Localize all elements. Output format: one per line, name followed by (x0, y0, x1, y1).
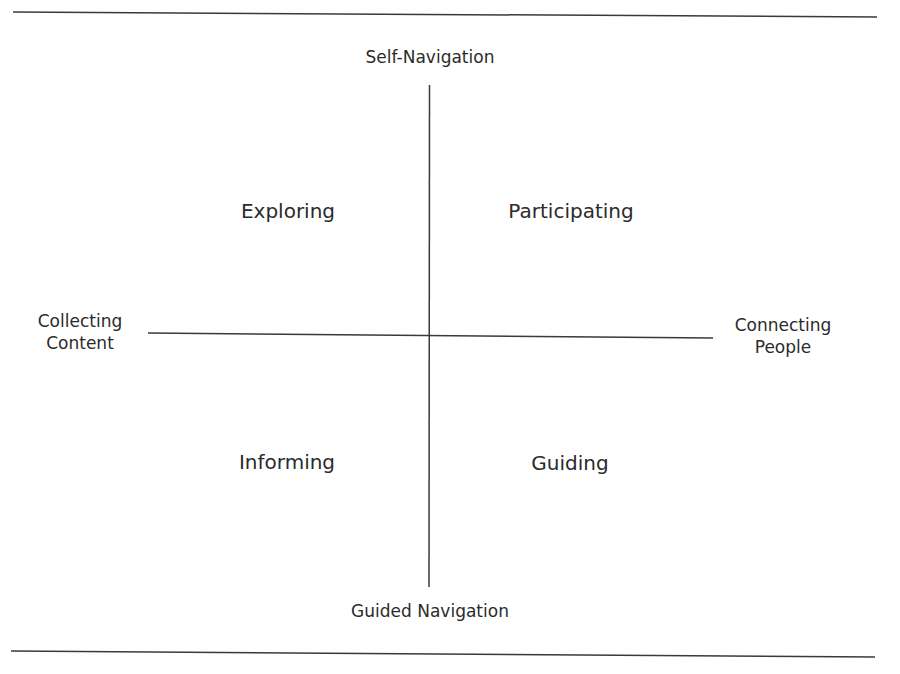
axis-label-top: Self-Navigation (330, 46, 530, 68)
quadrant-bottom-right: Guiding (490, 450, 650, 476)
axis-label-left: Collecting Content (20, 310, 140, 354)
axis-label-left-line2: Content (20, 332, 140, 354)
quadrant-top-right: Participating (481, 198, 661, 224)
quadrant-bottom-left: Informing (207, 449, 367, 475)
axis-label-left-line1: Collecting (20, 310, 140, 332)
top-rule (13, 12, 877, 17)
axis-label-right-line2: People (718, 336, 848, 358)
axis-label-right: Connecting People (718, 314, 848, 358)
bottom-rule (11, 651, 875, 657)
axis-label-bottom: Guided Navigation (315, 600, 545, 622)
axis-label-right-line1: Connecting (718, 314, 848, 336)
quadrant-top-left: Exploring (208, 198, 368, 224)
horizontal-axis (148, 333, 713, 338)
